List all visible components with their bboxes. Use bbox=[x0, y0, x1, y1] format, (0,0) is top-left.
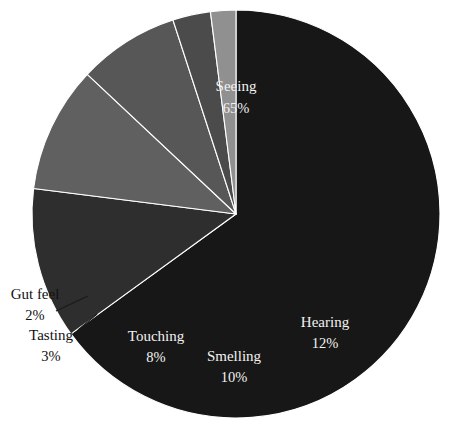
slice-label-name-gut-feel: Gut feel bbox=[11, 286, 60, 302]
slice-label-percent-hearing: 12% bbox=[312, 335, 339, 351]
pie-chart-svg: Seeing65%Hearing12%Smelling10%Touching8%… bbox=[0, 0, 453, 433]
slice-label-name-hearing: Hearing bbox=[301, 314, 350, 330]
slice-label-name-tasting: Tasting bbox=[29, 327, 73, 343]
slice-label-percent-touching: 8% bbox=[146, 349, 165, 365]
slice-label-name-touching: Touching bbox=[128, 328, 185, 344]
slice-label-percent-seeing: 65% bbox=[223, 100, 250, 116]
slice-label-percent-gut-feel: 2% bbox=[25, 307, 44, 323]
slice-label-percent-tasting: 3% bbox=[41, 348, 60, 364]
slice-label-name-seeing: Seeing bbox=[216, 78, 257, 94]
slice-label-name-smelling: Smelling bbox=[207, 348, 262, 364]
pie-chart-figure: Seeing65%Hearing12%Smelling10%Touching8%… bbox=[0, 0, 453, 433]
slice-label-percent-smelling: 10% bbox=[221, 369, 248, 385]
